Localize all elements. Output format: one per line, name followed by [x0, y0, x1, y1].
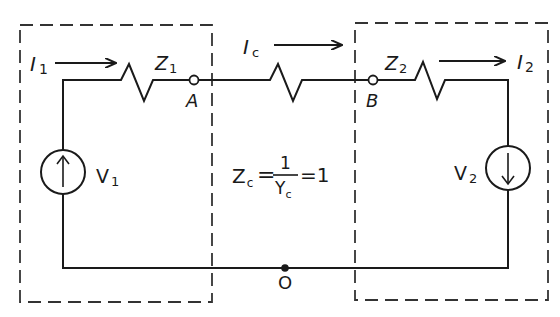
label-i2: I2 — [517, 50, 534, 75]
label-node-o: O — [278, 272, 292, 293]
label-ic: Ic — [243, 35, 259, 60]
node-o — [281, 264, 289, 272]
center-wire — [198, 64, 369, 101]
source-v1 — [41, 150, 85, 194]
svg-text:=: = — [257, 162, 275, 187]
node-a — [190, 76, 199, 85]
equation-zc: Zc = 1 Yc =1 — [232, 153, 329, 201]
svg-text:Yc: Yc — [274, 178, 291, 201]
svg-text:=1: =1 — [300, 163, 329, 187]
bottom-wire — [63, 190, 508, 268]
svg-text:1: 1 — [280, 153, 291, 173]
svg-text:Zc: Zc — [232, 164, 253, 190]
label-i1: I1 — [30, 52, 48, 77]
left-wire — [63, 64, 190, 150]
source-v2 — [486, 146, 530, 190]
right-wire — [377, 62, 508, 146]
node-b — [369, 76, 378, 85]
label-v2: V2 — [454, 162, 477, 186]
label-z1: Z1 — [154, 52, 177, 76]
label-node-a: A — [185, 90, 198, 111]
circuit-diagram: I1 Ic I2 Z1 Z2 A B O V1 V2 Zc = 1 Yc =1 — [0, 0, 560, 317]
label-v1: V1 — [96, 165, 119, 189]
label-node-b: B — [366, 90, 378, 111]
label-z2: Z2 — [384, 52, 407, 76]
